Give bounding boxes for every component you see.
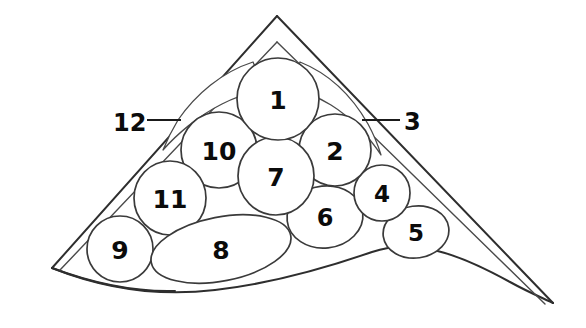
cell-7[interactable]: 7 xyxy=(238,137,314,215)
callout-12-label[interactable]: 12 xyxy=(113,109,146,137)
cell-11-label: 10 xyxy=(202,137,237,166)
cell-8-label: 8 xyxy=(212,236,229,265)
cell-9[interactable]: 9 xyxy=(87,216,153,282)
cell-5-label: 5 xyxy=(408,220,424,246)
cell-6-label: 6 xyxy=(317,204,334,232)
cell-1-label: 1 xyxy=(269,86,286,115)
cells-group: 10 11 9 8 5 6 xyxy=(87,58,452,294)
cell-1[interactable]: 1 xyxy=(237,58,319,140)
diagram-canvas: 10 11 9 8 5 6 xyxy=(0,0,586,328)
cell-4-label: 4 xyxy=(374,181,390,207)
cell-7-label: 7 xyxy=(267,163,284,192)
cell-10-label: 11 xyxy=(153,185,188,214)
cell-2-label: 2 xyxy=(326,137,343,166)
callout-3-label[interactable]: 3 xyxy=(404,108,421,136)
packed-cells-diagram: 10 11 9 8 5 6 xyxy=(0,0,586,328)
cell-9-label: 9 xyxy=(111,236,128,265)
